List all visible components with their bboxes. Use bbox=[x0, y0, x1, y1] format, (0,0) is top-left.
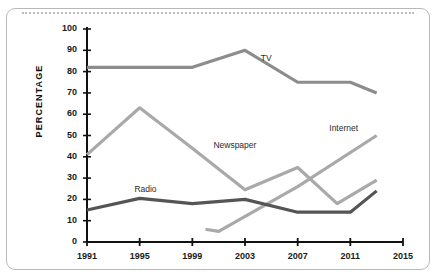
chart-screenshot: PERCENTAGE 01020304050607080901001991199… bbox=[0, 0, 437, 277]
series-label-tv: TV bbox=[261, 53, 272, 63]
series-label-internet: Internet bbox=[329, 123, 358, 133]
y-axis-tick-label: 0 bbox=[57, 236, 77, 246]
x-axis-tick-label: 2015 bbox=[383, 251, 423, 261]
x-axis-tick-label: 2011 bbox=[330, 251, 370, 261]
y-axis-tick-label: 80 bbox=[57, 66, 77, 76]
y-axis-tick-label: 10 bbox=[57, 215, 77, 225]
y-axis-tick-label: 30 bbox=[57, 172, 77, 182]
x-axis-tick-label: 1991 bbox=[67, 251, 107, 261]
y-axis-tick-label: 40 bbox=[57, 151, 77, 161]
y-axis-tick-label: 100 bbox=[57, 23, 77, 33]
y-axis-tick-label: 20 bbox=[57, 193, 77, 203]
y-axis-tick-label: 60 bbox=[57, 108, 77, 118]
y-axis-tick-label: 50 bbox=[57, 130, 77, 140]
series-label-radio: Radio bbox=[134, 184, 156, 194]
x-axis-tick-label: 1995 bbox=[120, 251, 160, 261]
series-label-newspaper: Newspaper bbox=[213, 140, 256, 150]
x-axis-tick-label: 2007 bbox=[278, 251, 318, 261]
chart-axes bbox=[83, 27, 403, 246]
y-axis-tick-label: 90 bbox=[57, 44, 77, 54]
y-axis-tick-label: 70 bbox=[57, 87, 77, 97]
series-line-tv bbox=[87, 50, 377, 93]
x-axis-tick-label: 2003 bbox=[225, 251, 265, 261]
x-axis-tick-label: 1999 bbox=[172, 251, 212, 261]
